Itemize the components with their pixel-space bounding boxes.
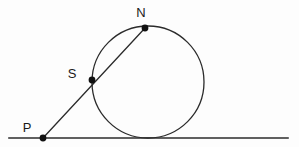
geometry-canvas: N S P bbox=[0, 0, 299, 147]
point-marker-p bbox=[40, 135, 47, 142]
secant-line bbox=[43, 28, 145, 138]
point-marker-n bbox=[142, 25, 149, 32]
point-label-n: N bbox=[136, 5, 145, 20]
geometry-figure: N S P bbox=[0, 0, 299, 147]
point-marker-s bbox=[89, 77, 96, 84]
point-label-p: P bbox=[23, 120, 32, 135]
point-label-s: S bbox=[68, 66, 77, 81]
circle-shape bbox=[92, 26, 204, 138]
